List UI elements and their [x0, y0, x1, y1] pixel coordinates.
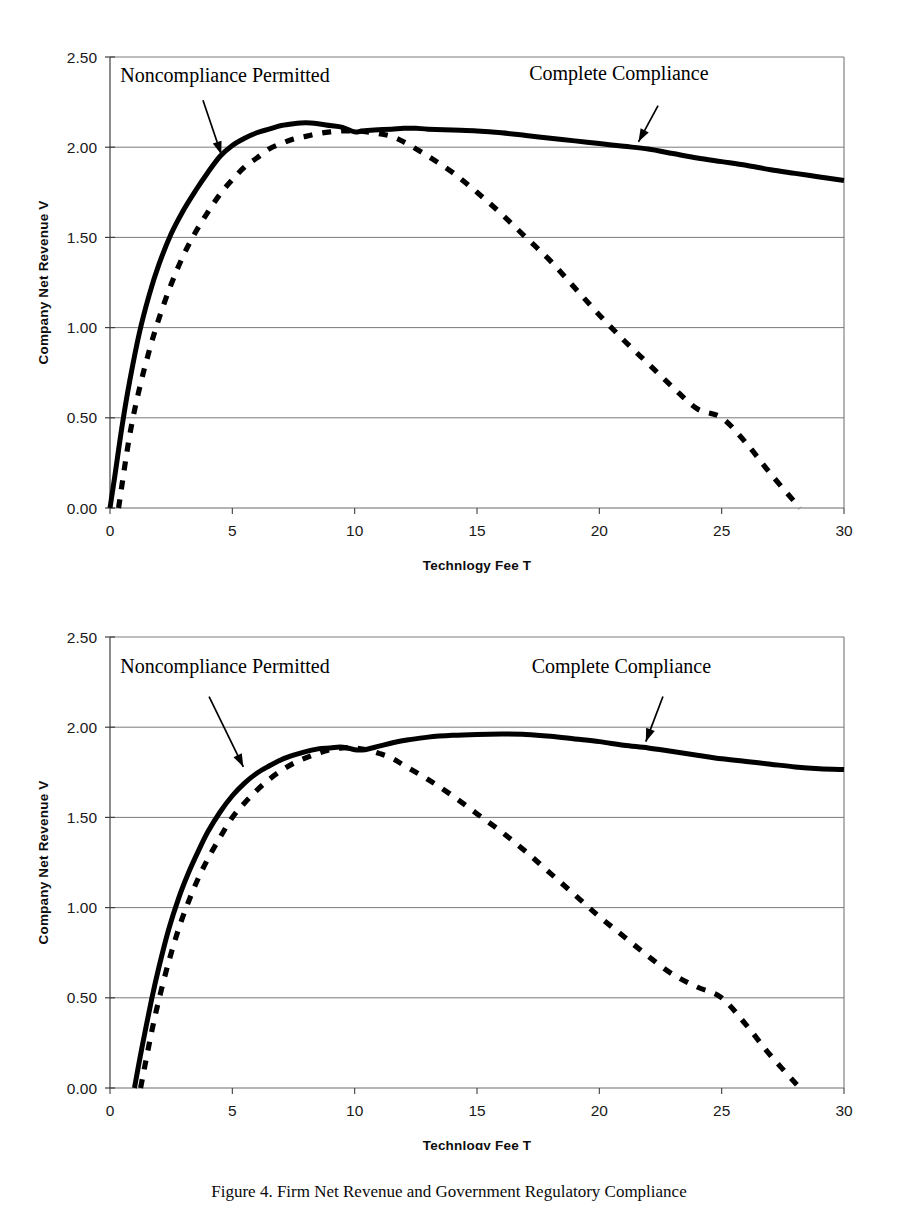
y-axis-tick-label: 0.50: [67, 409, 98, 426]
line-chart-bottom: 0.000.501.001.502.002.50051015202530Tech…: [0, 590, 898, 1150]
series-line-complete-compliance: [110, 123, 844, 508]
x-axis-tick-label: 20: [591, 522, 609, 539]
y-axis-tick-label: 1.00: [67, 899, 98, 916]
x-axis-tick-label: 10: [346, 522, 364, 539]
x-axis-tick-label: 15: [468, 1102, 485, 1119]
y-axis-title: Company Net Revenue V: [36, 781, 51, 945]
x-axis-tick-label: 30: [835, 522, 853, 539]
y-axis-tick-label: 2.00: [67, 719, 98, 736]
x-axis-tick-label: 20: [591, 1102, 609, 1119]
annotation-label-noncompliance-permitted: Noncompliance Permitted: [120, 655, 329, 678]
y-axis-title: Company Net Revenue V: [36, 201, 51, 365]
y-axis-tick-label: 0.00: [67, 500, 98, 517]
y-axis-tick-label: 0.00: [67, 1080, 98, 1097]
y-axis-tick-label: 1.00: [67, 319, 98, 336]
annotation-arrowhead-complete-compliance: [646, 728, 655, 742]
y-axis-tick-label: 2.50: [67, 49, 98, 66]
x-axis-tick-label: 30: [835, 1102, 853, 1119]
x-axis-tick-label: 25: [713, 1102, 730, 1119]
x-axis-title: Technlogy Fee T: [423, 558, 532, 573]
series-line-noncompliance-permitted: [119, 131, 800, 508]
line-chart-top: 0.000.501.001.502.002.50051015202530Tech…: [0, 0, 898, 590]
x-axis-tick-label: 25: [713, 522, 730, 539]
y-axis-tick-label: 2.00: [67, 139, 98, 156]
x-axis-title: Technlogy Fee T: [423, 1138, 532, 1150]
figure-caption: Figure 4. Firm Net Revenue and Governmen…: [0, 1172, 898, 1205]
x-axis-tick-label: 0: [106, 1102, 115, 1119]
plot-group: 0.000.501.001.502.002.50051015202530Tech…: [36, 49, 853, 574]
y-axis-tick-label: 2.50: [67, 629, 98, 646]
annotation-arrowhead-noncompliance-permitted: [234, 753, 244, 767]
x-axis-tick-label: 5: [228, 1102, 237, 1119]
y-axis-tick-label: 1.50: [67, 229, 98, 246]
annotation-label-complete-compliance: Complete Compliance: [529, 62, 709, 85]
x-axis-tick-label: 5: [228, 522, 237, 539]
figure-page: 0.000.501.001.502.002.50051015202530Tech…: [0, 0, 898, 1205]
annotation-label-noncompliance-permitted: Noncompliance Permitted: [120, 64, 329, 87]
x-axis-tick-label: 15: [468, 522, 485, 539]
series-line-complete-compliance: [134, 734, 844, 1088]
y-axis-tick-label: 0.50: [67, 989, 98, 1006]
chart-panel-top: 0.000.501.001.502.002.50051015202530Tech…: [0, 0, 898, 590]
y-axis-tick-label: 1.50: [67, 809, 98, 826]
series-line-noncompliance-permitted: [141, 748, 800, 1088]
annotation-label-complete-compliance: Complete Compliance: [532, 655, 712, 678]
plot-group: 0.000.501.001.502.002.50051015202530Tech…: [36, 629, 853, 1151]
x-axis-tick-label: 0: [106, 522, 115, 539]
x-axis-tick-label: 10: [346, 1102, 364, 1119]
annotation-arrowhead-complete-compliance: [638, 128, 648, 142]
chart-panel-bottom: 0.000.501.001.502.002.50051015202530Tech…: [0, 590, 898, 1150]
